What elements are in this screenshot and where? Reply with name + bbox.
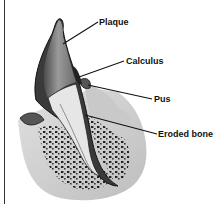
- leader-line-plaque: [63, 22, 98, 44]
- tooth-illustration: [0, 0, 223, 207]
- leader-line-calculus: [79, 61, 124, 77]
- label-calculus: Calculus: [126, 56, 164, 66]
- label-pus: Pus: [154, 94, 171, 104]
- label-eroded-bone: Eroded bone: [158, 129, 213, 139]
- label-plaque: Plaque: [99, 17, 129, 27]
